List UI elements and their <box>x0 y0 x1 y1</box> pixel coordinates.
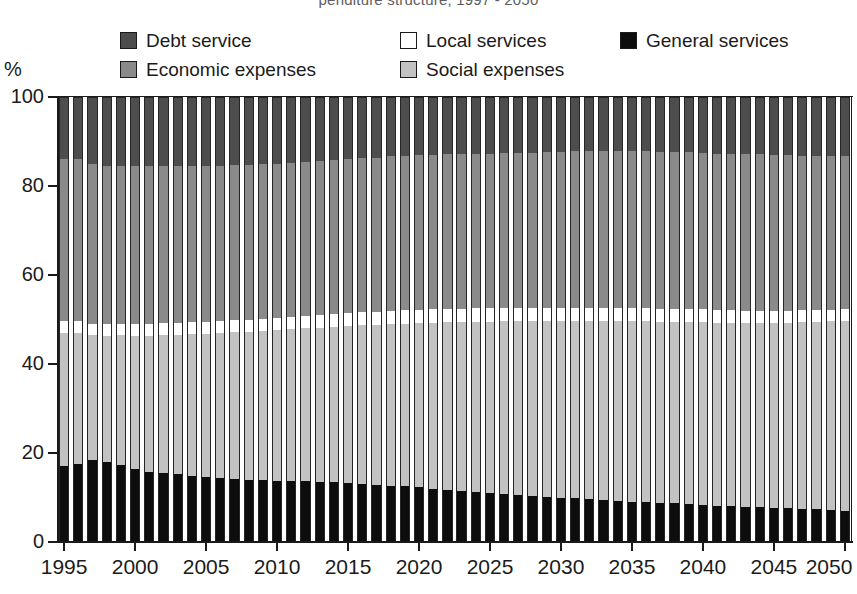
chart-bar[interactable] <box>513 97 523 542</box>
chart-bar[interactable] <box>329 97 339 542</box>
chart-bar-segment-economic-expenses <box>712 154 722 311</box>
chart-bar[interactable] <box>173 97 183 542</box>
y-axis-tick <box>48 452 57 453</box>
chart-bar[interactable] <box>215 97 225 542</box>
chart-bar[interactable] <box>315 97 325 542</box>
chart-bar[interactable] <box>598 97 608 542</box>
chart-bar-segment-social-expenses <box>442 322 452 489</box>
chart-bar[interactable] <box>769 97 779 542</box>
chart-bar[interactable] <box>726 97 736 542</box>
chart-bar-segment-economic-expenses <box>300 162 310 316</box>
chart-bar-segment-general-services <box>315 482 325 542</box>
chart-bar-segment-general-services <box>755 507 765 542</box>
chart-bar-segment-social-expenses <box>343 326 353 483</box>
chart-bar-segment-local-services <box>371 312 381 325</box>
chart-bar[interactable] <box>542 97 552 542</box>
chart-bar-segment-economic-expenses <box>201 166 211 322</box>
chart-bar[interactable] <box>456 97 466 542</box>
chart-bar-segment-general-services <box>59 466 69 542</box>
chart-bar-segment-debt-service <box>173 97 183 166</box>
chart-bar[interactable] <box>613 97 623 542</box>
chart-bar[interactable] <box>471 97 481 542</box>
chart-bar[interactable] <box>343 97 353 542</box>
chart-bar[interactable] <box>840 97 850 542</box>
chart-bar-segment-debt-service <box>769 97 779 155</box>
chart-bar-segment-social-expenses <box>613 321 623 501</box>
chart-bar-segment-general-services <box>244 480 254 542</box>
chart-bar[interactable] <box>272 97 282 542</box>
chart-bar[interactable] <box>783 97 793 542</box>
chart-bar[interactable] <box>244 97 254 542</box>
chart-bar[interactable] <box>258 97 268 542</box>
chart-bar[interactable] <box>187 97 197 542</box>
chart-bar[interactable] <box>655 97 665 542</box>
chart-bar-segment-debt-service <box>215 97 225 166</box>
chart-bar-segment-local-services <box>598 308 608 321</box>
chart-bar[interactable] <box>386 97 396 542</box>
chart-bar-segment-debt-service <box>499 97 509 153</box>
chart-bar[interactable] <box>300 97 310 542</box>
chart-bar[interactable] <box>499 97 509 542</box>
chart-bar[interactable] <box>641 97 651 542</box>
chart-bar[interactable] <box>428 97 438 542</box>
chart-bar[interactable] <box>371 97 381 542</box>
chart-bar-segment-economic-expenses <box>570 151 580 307</box>
chart-bar-segment-local-services <box>116 324 126 336</box>
chart-bar[interactable] <box>59 97 69 542</box>
chart-bar-segment-economic-expenses <box>215 166 225 322</box>
chart-bar-segment-economic-expenses <box>627 151 637 308</box>
chart-bar[interactable] <box>102 97 112 542</box>
chart-bar[interactable] <box>357 97 367 542</box>
x-axis-tick <box>560 542 561 551</box>
chart-bar[interactable] <box>684 97 694 542</box>
chart-bar[interactable] <box>698 97 708 542</box>
chart-bar-segment-local-services <box>229 320 239 332</box>
chart-bar[interactable] <box>627 97 637 542</box>
chart-bar[interactable] <box>414 97 424 542</box>
chart-bar[interactable] <box>826 97 836 542</box>
chart-bar-segment-local-services <box>187 322 197 334</box>
chart-bar-segment-social-expenses <box>73 333 83 464</box>
chart-bar[interactable] <box>442 97 452 542</box>
chart-bar-segment-debt-service <box>244 97 254 165</box>
chart-bar[interactable] <box>570 97 580 542</box>
chart-bar-segment-local-services <box>783 311 793 323</box>
chart-bar[interactable] <box>755 97 765 542</box>
chart-bar-segment-economic-expenses <box>315 161 325 315</box>
chart-bar[interactable] <box>584 97 594 542</box>
chart-bar-segment-economic-expenses <box>598 151 608 308</box>
chart-bar[interactable] <box>116 97 126 542</box>
chart-bar[interactable] <box>485 97 495 542</box>
chart-bar[interactable] <box>740 97 750 542</box>
chart-bar[interactable] <box>712 97 722 542</box>
chart-bar[interactable] <box>144 97 154 542</box>
chart-bar-segment-debt-service <box>187 97 197 166</box>
chart-bar-segment-economic-expenses <box>187 166 197 323</box>
chart-bar-segment-local-services <box>286 317 296 329</box>
chart-bar-segment-local-services <box>130 324 140 336</box>
chart-bar[interactable] <box>87 97 97 542</box>
chart-bar[interactable] <box>158 97 168 542</box>
chart-bar[interactable] <box>669 97 679 542</box>
chart-bar[interactable] <box>286 97 296 542</box>
chart-bar-segment-general-services <box>499 494 509 542</box>
chart-bar-segment-local-services <box>201 322 211 334</box>
chart-bar[interactable] <box>527 97 537 542</box>
chart-bar[interactable] <box>811 97 821 542</box>
chart-bar-segment-economic-expenses <box>343 159 353 313</box>
chart-bar-segment-debt-service <box>371 97 381 158</box>
chart-bar[interactable] <box>400 97 410 542</box>
chart-bar-segment-local-services <box>726 310 736 322</box>
chart-bar-segment-debt-service <box>144 97 154 166</box>
chart-bar[interactable] <box>73 97 83 542</box>
chart-bar[interactable] <box>556 97 566 542</box>
chart-bar-segment-general-services <box>584 499 594 542</box>
chart-bar-segment-social-expenses <box>655 322 665 503</box>
chart-bar[interactable] <box>201 97 211 542</box>
chart-bar[interactable] <box>229 97 239 542</box>
chart-bar-segment-local-services <box>357 312 367 325</box>
chart-bar[interactable] <box>130 97 140 542</box>
chart-bar-segment-debt-service <box>272 97 282 164</box>
x-axis-tick-label: 2010 <box>254 556 301 577</box>
chart-bar[interactable] <box>797 97 807 542</box>
